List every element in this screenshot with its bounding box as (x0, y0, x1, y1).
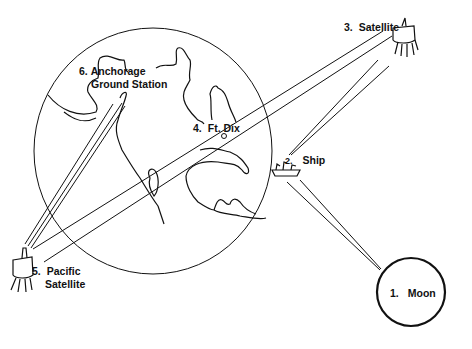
label-number: 3. (344, 21, 353, 33)
label-satellite: 3.Satellite (344, 21, 399, 33)
label-text-line1: Pacific (47, 265, 81, 277)
label-text: Moon (408, 287, 436, 299)
satellite-icon (11, 248, 33, 292)
label-number: 2. (285, 156, 293, 166)
label-number: 6. (79, 65, 88, 77)
label-text-line1: Anchorage (91, 65, 146, 77)
label-text: Ft. Dix (208, 122, 240, 134)
label-number: 4. (193, 122, 202, 134)
label-pacific-satellite-line2: Satellite (45, 278, 85, 290)
label-text: Ship (303, 154, 326, 166)
label-ship: 2.Ship (285, 154, 325, 167)
label-text-line2: Ground Station (91, 78, 167, 90)
label-ft-dix: 4.Ft. Dix (193, 122, 240, 134)
label-text: Satellite (359, 21, 399, 33)
earth-globe (34, 28, 272, 274)
label-text-line2: Satellite (45, 278, 85, 290)
label-anchorage-line2: Ground Station (91, 78, 167, 90)
label-moon: 1.Moon (390, 287, 436, 299)
label-number: 5. (32, 265, 41, 277)
label-number: 1. (390, 287, 399, 299)
label-anchorage: 6.Anchorage (79, 65, 146, 77)
label-pacific-satellite: 5.Pacific (32, 265, 81, 277)
